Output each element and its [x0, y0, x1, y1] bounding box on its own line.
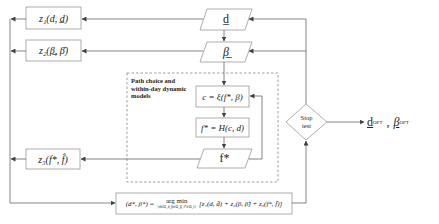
fstar-label: f* [197, 149, 252, 168]
argmin-lhs: (d*, β*) = [126, 200, 155, 208]
d-label: d̲ [200, 9, 252, 30]
output-beta-sub: OPT [399, 120, 408, 125]
stop-label-line2: test [302, 122, 311, 130]
argmin-label: (d*, β*) = arg min {d∈Ω_d, β∈Ω_β, f*∈Ω_f… [116, 193, 292, 214]
argmin-op-sub: {d∈Ω_d, β∈Ω_β, f*∈Ω_f} [157, 204, 196, 210]
beta-label: β̲ [200, 42, 252, 62]
group-label-line1: Path choice and [131, 77, 186, 85]
stop-test-label: Stop test [286, 110, 327, 134]
output-sep: , [386, 115, 389, 130]
output-label: dOPT , βOPT [367, 112, 409, 132]
group-label-line2: within-day dynamic [131, 85, 186, 93]
stop-label-line1: Stop [301, 114, 313, 122]
f-equation-label: f* = H(c, d) [196, 118, 249, 137]
c-equation-label: c = ξ(f*, β) [196, 86, 249, 107]
group-label: Path choice and within-day dynamic model… [131, 77, 186, 100]
z1-label: z₁(d, d̲) [26, 7, 81, 29]
argmin-rhs: [z₁(d, d̂) + z₂(β, β̂) + z₃(f*, f̂)] [199, 200, 282, 208]
output-d-sub: OPT [373, 120, 382, 125]
argmin-operator: arg min {d∈Ω_d, β∈Ω_β, f*∈Ω_f} [157, 198, 196, 210]
z3-label: z₃(f*, f̂) [26, 149, 80, 169]
group-label-line3: models [131, 92, 186, 100]
z2-label: z₂(β̲, β̄) [26, 40, 81, 61]
